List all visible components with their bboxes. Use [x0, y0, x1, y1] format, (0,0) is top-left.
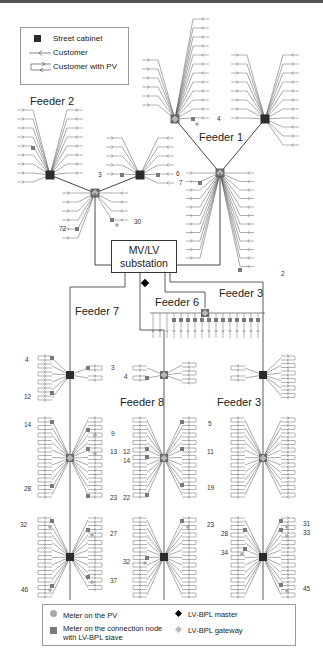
node-number: 2: [281, 270, 285, 277]
branch: [52, 420, 70, 458]
meter-pv: [285, 534, 289, 538]
meter-connection-node: [86, 447, 90, 451]
meter-connection-node: [228, 318, 232, 322]
branch: [245, 420, 263, 458]
street-cabinet: [259, 371, 267, 379]
street-cabinet: [66, 371, 74, 379]
meter-pv: [90, 580, 94, 584]
node-number: 22: [123, 494, 130, 501]
branch: [50, 128, 67, 175]
branch: [175, 37, 193, 119]
meter-connection-node: [249, 318, 253, 322]
feeder-2-label: Feeder 2: [30, 95, 74, 107]
meter-connection-node: [214, 318, 218, 322]
branch: [220, 173, 240, 207]
branch: [147, 528, 164, 558]
branch: [147, 458, 164, 488]
feeder-1-label: Feeder 1: [199, 131, 243, 143]
branch: [245, 428, 263, 459]
substation-label-line1: MV/LV: [112, 244, 176, 257]
branch: [70, 557, 88, 588]
meter-connection-node: [279, 583, 283, 587]
meter-connection-node: [50, 356, 54, 360]
node-number: 46: [21, 586, 28, 593]
node-number: 12: [24, 393, 31, 400]
node-number: 11: [207, 448, 214, 455]
node-number: 4: [217, 115, 221, 122]
branch: [158, 69, 175, 119]
branch: [263, 557, 281, 588]
node-number: 9: [111, 430, 115, 437]
meter-connection-node: [145, 556, 149, 560]
meter-connection-node: [110, 218, 114, 222]
branch: [164, 557, 182, 595]
meter-connection-node: [86, 575, 90, 579]
meter-connection-node: [50, 519, 54, 523]
branch: [33, 128, 50, 175]
node-number: 32: [123, 558, 130, 565]
street-cabinet: [136, 171, 145, 180]
branch: [147, 557, 164, 588]
node-number: 28: [24, 485, 31, 492]
meter-connection-node: [50, 484, 54, 488]
branch: [52, 528, 70, 558]
meter-connection-node: [242, 318, 246, 322]
branch: [164, 557, 182, 588]
meter-pv: [93, 452, 97, 456]
branch: [247, 73, 265, 119]
branch: [175, 73, 193, 119]
mv-lv-substation: MV/LV substation: [111, 240, 177, 273]
branch: [245, 458, 263, 488]
node-number: 4: [25, 356, 29, 363]
node-number: 37: [110, 577, 117, 584]
meter-connection-node: [180, 519, 184, 523]
meter-connection-node: [31, 146, 35, 150]
meter-connection-node: [198, 181, 202, 185]
meter-pv-icon: [50, 610, 57, 617]
branch: [70, 458, 88, 488]
branch: [164, 420, 182, 458]
feeder-6-label: Feeder 6: [155, 296, 199, 308]
branch: [50, 119, 67, 175]
node-number: 32: [20, 521, 27, 528]
meter-connection-node: [256, 318, 260, 322]
branch: [200, 173, 220, 250]
branch: [33, 119, 50, 175]
node-number: 33: [303, 529, 310, 536]
branch: [263, 428, 281, 459]
branch: [70, 420, 88, 458]
meter-pv: [93, 433, 97, 437]
branch: [263, 458, 281, 488]
node-number: 31: [303, 520, 310, 527]
feeder-3-top-label: Feeder 3: [219, 287, 263, 299]
meter-connection-node: [207, 318, 211, 322]
substation-label-line2: substation: [112, 257, 176, 270]
meter-connection-node: [50, 391, 54, 395]
street-cabinet: [261, 115, 270, 124]
branch: [52, 557, 70, 588]
branch: [200, 173, 220, 216]
feeder-1-cable: [175, 119, 220, 173]
meter-connection-node: [120, 173, 124, 177]
branch: [265, 73, 283, 119]
street-cabinet: [259, 553, 267, 561]
node-number: 4: [124, 373, 128, 380]
meter-pv: [186, 525, 190, 529]
legend-bpl-master-label: LV-BPL master: [188, 610, 238, 619]
legend-item-street-cabinet: Street cabinet: [21, 33, 128, 45]
branch: [220, 173, 240, 233]
meter-connection-node: [221, 318, 225, 322]
meter-connection-node: [238, 268, 242, 272]
node-number: 45: [303, 585, 310, 592]
meter-connection-node: [145, 493, 149, 497]
branch: [245, 557, 263, 588]
meter-connection-node: [145, 376, 149, 380]
legend-meter-node-label-line2: with LV-BPL slave: [63, 633, 123, 642]
meter-connection-node: [179, 318, 183, 322]
legend-bottom: Meter on the PV Meter on the connection …: [42, 604, 296, 646]
branch: [52, 557, 70, 595]
branch: [52, 458, 70, 488]
branch: [122, 138, 140, 175]
meter-connection-node: [86, 494, 90, 498]
node-number: 72: [59, 225, 66, 232]
